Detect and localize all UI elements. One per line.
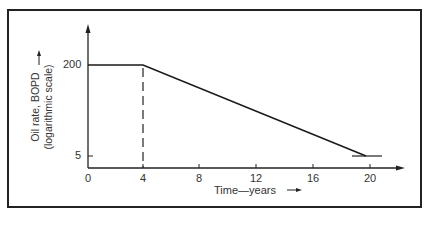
y-axis-label-line2: (logarithmic scale) [42, 64, 55, 149]
x-tick-label-8: 8 [196, 172, 202, 184]
y-tick-label-5: 5 [75, 149, 81, 161]
x-axis-label: Time—years [214, 184, 276, 196]
x-tick-label-16: 16 [307, 172, 319, 184]
y-axis-arrow-icon [86, 24, 91, 33]
x-tick-label-4: 4 [140, 172, 146, 184]
x-tick-label-0: 0 [85, 172, 91, 184]
x-tick-label-12: 12 [250, 172, 262, 184]
x-tick-label-20: 20 [364, 172, 376, 184]
y-tick-label-200: 200 [63, 58, 81, 70]
y-axis-label-line1: Oil rate, BOPD [29, 64, 42, 149]
y-axis-label: Oil rate, BOPD (logarithmic scale) [24, 52, 60, 162]
x-label-arrow-icon [296, 188, 302, 192]
oil-rate-series [88, 65, 366, 156]
x-axis-arrow-icon [396, 166, 405, 171]
